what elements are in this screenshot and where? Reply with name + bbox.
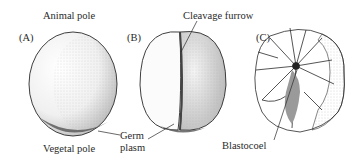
label-blastocoel: Blastocoel: [222, 140, 266, 151]
label-vegetal-pole: Vegetal pole: [43, 143, 95, 154]
germ-plasm-a-leader: [98, 131, 120, 135]
panel-c-cleaved-embryo: [255, 28, 345, 140]
panel-a-egg: [29, 32, 120, 136]
label-animal-pole: Animal pole: [43, 10, 95, 21]
panel-c-label: (C): [256, 32, 270, 43]
panel-b-two-cell: [140, 21, 226, 139]
embryo-diagram: [0, 0, 364, 163]
panel-b-label: (B): [127, 32, 141, 43]
panel-a-label: (A): [19, 32, 34, 43]
label-cleavage-furrow: Cleavage furrow: [183, 10, 253, 21]
label-germ-line2: plasm: [120, 142, 145, 153]
label-germ-line1: Germ: [120, 130, 144, 141]
